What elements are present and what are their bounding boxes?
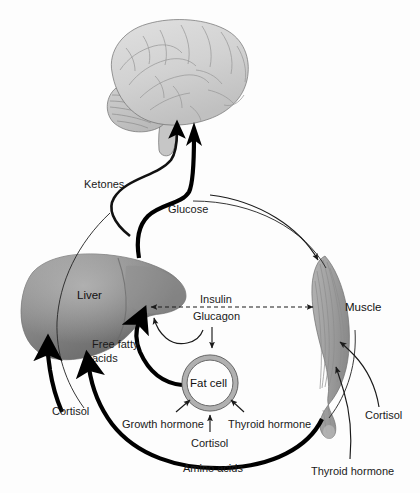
thyroid-hormone-muscle-label: Thyroid hormone (311, 465, 394, 477)
cerebrum (111, 20, 248, 126)
growth-hormone-label: Growth hormone (122, 418, 204, 430)
muscle-body (312, 256, 350, 438)
growth-hormone-arrow (176, 400, 190, 412)
glucose-to-muscle-arrow (210, 195, 318, 260)
circulation-arc-top-right (193, 201, 326, 268)
liver-label: Liver (77, 289, 102, 301)
muscle-label: Muscle (345, 301, 381, 313)
thyroid-hormone-fat-label: Thyroid hormone (228, 418, 311, 430)
free-fatty-acids-label-line2: acids (92, 352, 118, 364)
glucagon-label: Glucagon (193, 310, 240, 322)
amino-acids-label: Amino acids (183, 462, 243, 474)
muscle-illustration (312, 256, 350, 439)
metabolism-diagram: Liver Muscle Ketones (0, 0, 420, 493)
cortisol-fat-label: Cortisol (191, 437, 228, 449)
ketones-label: Ketones (84, 178, 125, 190)
liver-right-lobe (125, 266, 186, 314)
fat-cell-label: Fat cell (190, 377, 227, 389)
free-fatty-acids-arrow (137, 322, 183, 385)
muscle-tendon (323, 425, 335, 439)
diagram-canvas: Liver Muscle Ketones (0, 0, 420, 493)
glucose-label: Glucose (168, 203, 208, 215)
free-fatty-acids-label-line1: Free fatty (92, 338, 139, 350)
insulin-label: Insulin (200, 293, 232, 305)
cortisol-to-liver-arrow (48, 352, 62, 412)
cortisol-liver-label: Cortisol (52, 405, 89, 417)
thyroid-hormone-fat-arrow (231, 400, 244, 412)
cortisol-muscle-label: Cortisol (365, 409, 402, 421)
